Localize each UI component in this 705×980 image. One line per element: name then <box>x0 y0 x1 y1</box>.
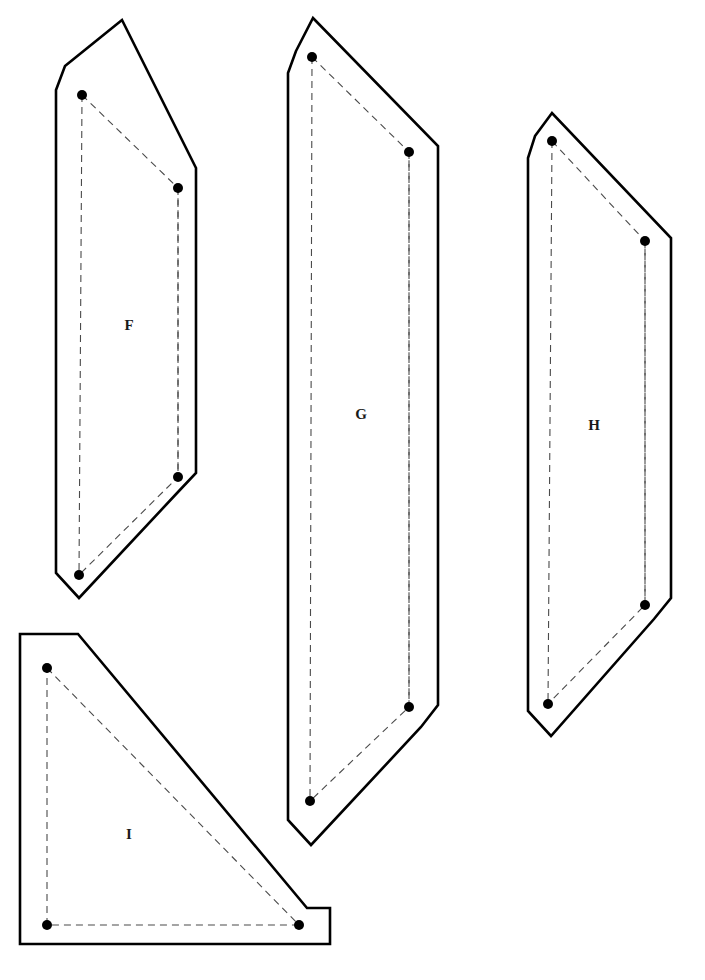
pattern-drawing-canvas: F G H <box>0 0 705 980</box>
dot-i-bottom-left[interactable] <box>42 920 52 930</box>
pattern-sheet: F G H <box>0 0 705 980</box>
dot-h-bottom-left[interactable] <box>543 699 553 709</box>
pattern-piece-h[interactable]: H <box>528 113 671 736</box>
piece-f-outline[interactable] <box>56 20 196 598</box>
piece-label-i: I <box>126 826 132 842</box>
dot-f-top-right[interactable] <box>173 183 183 193</box>
dot-i-top-left[interactable] <box>42 663 52 673</box>
dot-h-top-right[interactable] <box>640 236 650 246</box>
dot-g-top-right[interactable] <box>404 147 414 157</box>
dot-h-top-left[interactable] <box>547 136 557 146</box>
dot-f-top-left[interactable] <box>77 90 87 100</box>
dot-i-bottom-right[interactable] <box>294 920 304 930</box>
pattern-piece-i[interactable]: I <box>20 634 330 944</box>
dot-g-bottom-left[interactable] <box>305 796 315 806</box>
dot-f-bottom-right[interactable] <box>173 472 183 482</box>
dot-g-bottom-right[interactable] <box>404 702 414 712</box>
pattern-piece-f[interactable]: F <box>56 20 196 598</box>
piece-label-f: F <box>124 317 133 333</box>
pattern-piece-g[interactable]: G <box>288 18 438 845</box>
dot-f-bottom-left[interactable] <box>74 570 84 580</box>
dot-g-top-left[interactable] <box>307 52 317 62</box>
dot-h-bottom-right[interactable] <box>640 600 650 610</box>
piece-label-g: G <box>355 406 367 422</box>
piece-i-outline[interactable] <box>20 634 330 944</box>
piece-label-h: H <box>588 417 600 433</box>
